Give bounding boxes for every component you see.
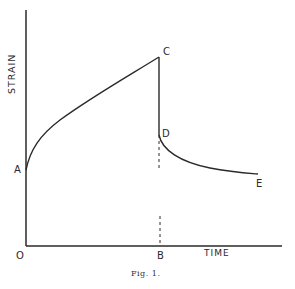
point-label-c: C: [163, 47, 170, 57]
figure-caption: Fig. 1.: [131, 269, 160, 278]
point-label-d: D: [162, 129, 170, 139]
y-axis-label: STRAIN: [7, 54, 17, 94]
point-label-e: E: [256, 179, 262, 189]
x-axis-label: TIME: [204, 249, 230, 258]
strain-time-diagram: [0, 0, 295, 289]
loading-curve-a-to-c: [26, 57, 159, 170]
origin-label: O: [16, 251, 24, 261]
point-label-b: B: [157, 251, 164, 261]
point-label-a: A: [14, 165, 21, 175]
creep-recovery-d-to-e: [159, 135, 258, 174]
